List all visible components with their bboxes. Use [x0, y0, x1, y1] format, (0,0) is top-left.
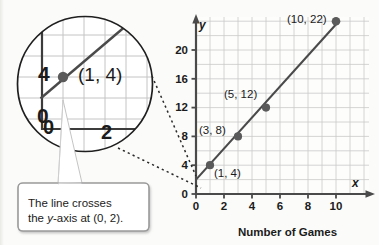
magnified-x-label-0: 0 [43, 116, 54, 139]
x-tick-label-10: 10 [326, 200, 346, 212]
x-axis-arrowhead [366, 190, 376, 197]
data-point-1-4[interactable] [206, 161, 214, 169]
x-tick-label-8: 8 [298, 200, 318, 212]
callout-line-2-post: -axis at (0, 2). [53, 212, 123, 224]
x-tick-label-4: 4 [242, 200, 262, 212]
data-point-10-22[interactable] [332, 17, 341, 26]
magnified-point-label: (1, 4) [78, 64, 122, 86]
page-canvas: 4 0 0 2 (1, 4) The line crosses the y-ax… [0, 0, 379, 245]
y-tick-label-4: 4 [168, 159, 188, 171]
point-label-3-8: (3, 8) [199, 124, 226, 136]
x-axis-name: x [352, 176, 359, 190]
data-point-5-12[interactable] [262, 104, 270, 112]
y-tick-label-16: 16 [168, 73, 188, 85]
x-tick-label-0: 0 [186, 200, 206, 212]
x-tick-label-2: 2 [214, 200, 234, 212]
y-tick-label-0: 0 [168, 188, 188, 200]
data-point-3-8[interactable] [234, 132, 242, 140]
y-tick-label-12: 12 [168, 101, 188, 113]
magnified-data-point[interactable] [58, 72, 68, 82]
callout-line-2: the y-axis at (0, 2). [28, 212, 123, 224]
point-label-1-4: (1, 4) [214, 167, 241, 179]
callout-line-2-pre: the [28, 212, 47, 224]
magnified-y-label-4: 4 [38, 62, 50, 86]
x-axis-title: Number of Games [238, 226, 337, 238]
callout-pointer-join [59, 184, 82, 186]
point-label-10-22: (10, 22) [287, 13, 327, 25]
y-tick-label-8: 8 [168, 130, 188, 142]
magnified-x-label-2: 2 [101, 121, 112, 144]
y-tick-label-20: 20 [168, 44, 188, 56]
callout-line-1: The line crosses [28, 197, 112, 209]
point-label-5-12: (5, 12) [224, 88, 257, 100]
x-tick-label-6: 6 [270, 200, 290, 212]
y-axis-name: y [199, 18, 206, 32]
